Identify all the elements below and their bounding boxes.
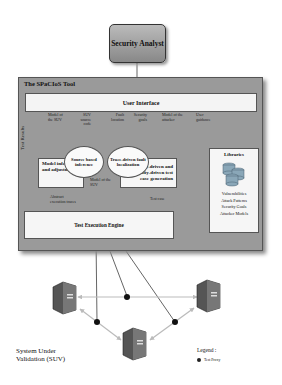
suv-label-line2: Validation (SUV) — [16, 355, 65, 363]
test-proxy-dot — [172, 319, 178, 325]
legend-item: Test Proxy — [197, 358, 220, 362]
test-proxy-legend-icon — [197, 358, 201, 362]
test-proxy-dot — [124, 294, 130, 300]
server-icon — [123, 328, 146, 360]
suv-label-line1: System Under — [16, 347, 65, 355]
server-icon — [53, 282, 76, 314]
suv-label: System Under Validation (SUV) — [16, 347, 65, 363]
legend-title: Legend : — [197, 347, 216, 353]
server-icon — [197, 280, 220, 312]
suv-network — [0, 0, 282, 385]
legend-item-label: Test Proxy — [204, 358, 220, 362]
test-proxy-dot — [94, 319, 100, 325]
